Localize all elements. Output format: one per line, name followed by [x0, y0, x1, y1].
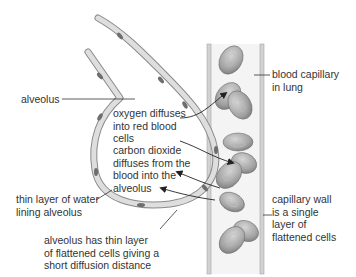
- label-capillary-wall: capillary wall is a single layer of flat…: [272, 193, 336, 243]
- label-oxygen-diffusion: oxygen diffuses into red blood cells: [113, 107, 186, 145]
- label-alveolus-wall: alveolus has thin layer of flattened cel…: [44, 234, 159, 272]
- label-water-layer: thin layer of water lining alveolus: [16, 193, 99, 218]
- label-co2-diffusion: carbon dioxide diffuses from the blood i…: [113, 144, 190, 194]
- label-alveolus: alveolus: [21, 93, 60, 106]
- capillary-wall-right: [260, 44, 264, 274]
- label-blood-capillary: blood capillary in lung: [272, 68, 339, 93]
- capillary-wall-left: [207, 44, 211, 274]
